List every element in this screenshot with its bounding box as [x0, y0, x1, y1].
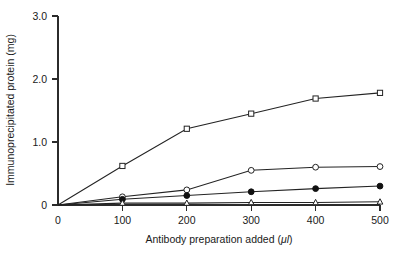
data-series-group — [58, 90, 383, 205]
x-tick-label-group: 0100200300400500 — [55, 214, 389, 226]
marker-open-square — [184, 126, 189, 131]
x-tick-label: 500 — [371, 214, 389, 226]
marker-filled-circle — [184, 193, 190, 199]
marker-open-square — [249, 111, 254, 116]
line-chart-plot: 01.02.03.0 0100200300400500 Antibody pre… — [0, 0, 394, 256]
series-line — [58, 167, 380, 205]
marker-open-square — [377, 90, 382, 95]
series-open-circle — [58, 164, 383, 205]
chart-figure: 01.02.03.0 0100200300400500 Antibody pre… — [0, 0, 394, 256]
x-tick-label: 0 — [55, 214, 61, 226]
x-axis-title: Antibody preparation added (μl) — [145, 233, 292, 245]
series-filled-circle — [58, 183, 383, 205]
x-tick-group — [122, 205, 380, 211]
marker-open-circle — [184, 187, 190, 193]
marker-open-square — [120, 163, 125, 168]
marker-filled-circle — [313, 186, 319, 192]
y-tick-label-group: 01.02.03.0 — [32, 10, 47, 211]
y-tick-label: 2.0 — [32, 73, 47, 85]
marker-filled-circle — [248, 189, 254, 195]
marker-open-circle — [377, 164, 383, 170]
marker-filled-circle — [377, 183, 383, 189]
marker-open-circle — [313, 164, 319, 170]
x-tick-label: 100 — [114, 214, 132, 226]
y-axis-title: Immunoprecipitated protein (mg) — [4, 34, 16, 186]
marker-open-square — [313, 96, 318, 101]
y-tick-label: 3.0 — [32, 10, 47, 22]
axes-group — [58, 16, 380, 205]
x-tick-label: 200 — [178, 214, 196, 226]
series-open-triangle — [58, 199, 383, 206]
marker-open-circle — [248, 167, 254, 173]
x-tick-label: 300 — [242, 214, 260, 226]
y-tick-group — [52, 16, 58, 205]
x-tick-label: 400 — [307, 214, 325, 226]
y-tick-label: 1.0 — [32, 136, 47, 148]
y-tick-label: 0 — [41, 199, 47, 211]
